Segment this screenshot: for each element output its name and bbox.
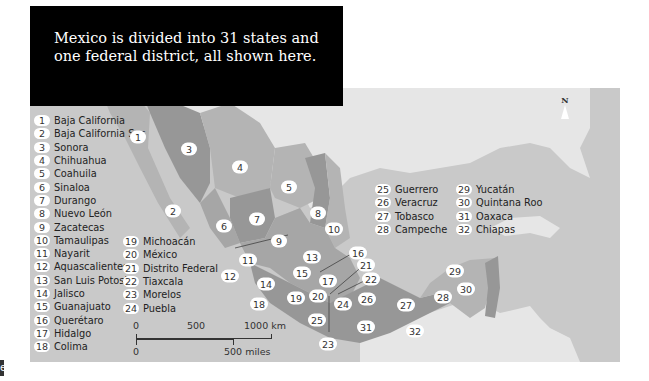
map-badge-17: 17: [319, 275, 337, 288]
legend-state-name: Morelos: [143, 289, 181, 300]
legend-number: 22: [123, 276, 139, 287]
legend-state-name: Tobasco: [395, 211, 434, 222]
map-badge-13: 13: [303, 251, 321, 264]
legend-number: 27: [375, 211, 391, 222]
legend-column-2: 19Michoacán20México21Distrito Federal22T…: [123, 235, 218, 315]
legend-state-name: Nuevo León: [54, 208, 112, 219]
legend-state-name: Distrito Federal: [143, 263, 218, 274]
scale-mile-0: 0: [133, 346, 139, 357]
legend-number: 32: [456, 224, 472, 235]
map-badge-32: 32: [406, 325, 424, 338]
legend-item: 1Baja California: [34, 114, 145, 127]
map-badge-19: 19: [287, 292, 305, 305]
legend-state-name: Puebla: [143, 303, 176, 314]
legend-number: 21: [123, 263, 139, 274]
map-badge-21: 21: [357, 259, 375, 272]
legend-number: 10: [34, 235, 50, 246]
map-badge-23: 23: [319, 338, 337, 351]
legend-state-name: Colima: [54, 341, 88, 352]
legend-column-3: 25Guerrero26Veracruz27Tobasco28Campeche: [375, 183, 447, 236]
legend-number: 1: [34, 115, 50, 126]
legend-item: 21Distrito Federal: [123, 262, 218, 275]
legend-number: 8: [34, 208, 50, 219]
legend-state-name: Tamaulipas: [54, 235, 109, 246]
legend-number: 5: [34, 168, 50, 179]
legend-state-name: Querétaro: [54, 315, 103, 326]
legend-state-name: Sonora: [54, 142, 88, 153]
legend-item: 17Hidalgo: [34, 327, 145, 340]
caption-box: Mexico is divided into 31 states and one…: [30, 6, 343, 106]
legend-number: 14: [34, 288, 50, 299]
scale-km-1000: 1000 km: [244, 320, 286, 331]
map-badge-28: 28: [434, 291, 452, 304]
legend-item: 26Veracruz: [375, 196, 447, 209]
legend-item: 24Puebla: [123, 301, 218, 314]
legend-number: 13: [34, 275, 50, 286]
map-badge-3: 3: [181, 143, 197, 156]
legend-item: 16Querétaro: [34, 313, 145, 326]
map-badge-18: 18: [250, 298, 268, 311]
map-badge-26: 26: [358, 293, 376, 306]
legend-number: 7: [34, 195, 50, 206]
legend-number: 30: [456, 197, 472, 208]
legend-item: 31Oaxaca: [456, 210, 542, 223]
edge-tab: e: [0, 360, 4, 376]
legend-state-name: Veracruz: [395, 197, 438, 208]
legend-state-name: Michoacán: [143, 236, 195, 247]
legend-item: 19Michoacán: [123, 235, 218, 248]
legend-item: 3Sonora: [34, 141, 145, 154]
legend-state-name: Zacatecas: [54, 222, 104, 233]
legend-state-name: San Luis Potosi: [54, 275, 127, 286]
map-badge-20: 20: [309, 290, 327, 303]
legend-item: 2Baja California Sur: [34, 127, 145, 140]
legend-state-name: Jalisco: [54, 288, 85, 299]
map-badge-25: 25: [308, 314, 326, 327]
legend-number: 19: [123, 236, 139, 247]
legend-number: 9: [34, 222, 50, 233]
legend-state-name: Oaxaca: [476, 211, 513, 222]
map-badge-22: 22: [362, 273, 380, 286]
legend-state-name: Guerrero: [395, 184, 438, 195]
compass-label: N: [561, 95, 569, 105]
legend-item: 5Coahuila: [34, 167, 145, 180]
map-badge-27: 27: [397, 299, 415, 312]
map-badge-29: 29: [446, 265, 464, 278]
legend-number: 25: [375, 184, 391, 195]
map-badge-6: 6: [216, 220, 232, 233]
legend-state-name: Aquascalientes: [54, 261, 128, 272]
legend-state-name: México: [143, 249, 177, 260]
legend-item: 9Zacatecas: [34, 220, 145, 233]
legend-state-name: Nayarit: [54, 248, 90, 259]
legend-number: 29: [456, 184, 472, 195]
legend-item: 32Chiapas: [456, 223, 542, 236]
legend-state-name: Yucatán: [476, 184, 515, 195]
legend-item: 23Morelos: [123, 288, 218, 301]
legend-state-name: Coahuila: [54, 168, 97, 179]
legend-number: 26: [375, 197, 391, 208]
legend-number: 20: [123, 249, 139, 260]
legend-number: 18: [34, 341, 50, 352]
map-badge-8: 8: [310, 207, 326, 220]
map-badge-15: 15: [293, 267, 311, 280]
legend-state-name: Chiapas: [476, 224, 515, 235]
legend-item: 20México: [123, 248, 218, 261]
legend-number: 17: [34, 328, 50, 339]
map-badge-5: 5: [281, 181, 297, 194]
legend-state-name: Hidalgo: [54, 328, 91, 339]
legend-item: 18Colima: [34, 340, 145, 353]
map-badge-14: 14: [257, 278, 275, 291]
legend-column-4: 29Yucatán30Quintana Roo31Oaxaca32Chiapas: [456, 183, 542, 236]
map-badge-12: 12: [221, 270, 239, 283]
legend-item: 6Sinaloa: [34, 180, 145, 193]
legend-column-1: 1Baja California2Baja California Sur3Son…: [34, 114, 145, 353]
caption-text: Mexico is divided into 31 states and one…: [54, 29, 334, 65]
legend-number: 2: [34, 128, 50, 139]
legend-number: 12: [34, 261, 50, 272]
map-badge-30: 30: [457, 283, 475, 296]
legend-number: 24: [123, 303, 139, 314]
map-badge-1: 1: [130, 131, 146, 144]
map-badge-10: 10: [325, 223, 343, 236]
legend-number: 23: [123, 289, 139, 300]
legend-item: 25Guerrero: [375, 183, 447, 196]
legend-number: 4: [34, 155, 50, 166]
